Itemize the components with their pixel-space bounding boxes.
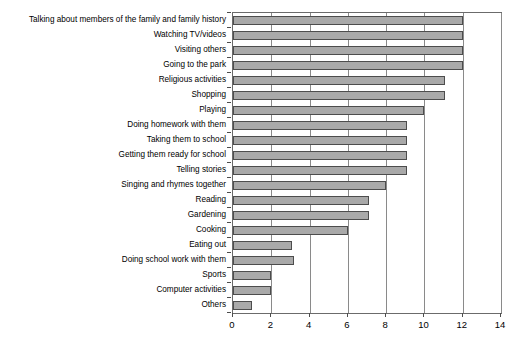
bar-row <box>233 58 501 73</box>
y-axis-tick <box>227 312 231 313</box>
x-axis-tick <box>270 313 271 317</box>
x-axis-tick <box>500 313 501 317</box>
category-label: Singing and rhymes together <box>0 177 226 192</box>
gridline <box>501 13 502 313</box>
category-axis-labels: Talking about members of the family and … <box>0 12 230 312</box>
x-axis-tick <box>423 313 424 317</box>
bar <box>233 226 348 235</box>
y-axis-tick <box>227 162 231 163</box>
bar-row <box>233 73 501 88</box>
category-label: Sports <box>0 267 226 282</box>
bar <box>233 46 463 55</box>
bar <box>233 76 445 85</box>
bar <box>233 196 369 205</box>
bar <box>233 211 369 220</box>
bar <box>233 151 407 160</box>
bar-row <box>233 43 501 58</box>
bar-row <box>233 13 501 28</box>
x-axis-tick <box>309 313 310 317</box>
bar-row <box>233 283 501 298</box>
category-label: Doing homework with them <box>0 117 226 132</box>
bar <box>233 241 292 250</box>
bar <box>233 181 386 190</box>
bar <box>233 301 252 310</box>
y-axis-tick <box>227 177 231 178</box>
y-axis-tick <box>227 117 231 118</box>
bar-row <box>233 253 501 268</box>
x-axis-tick-label: 0 <box>217 319 247 330</box>
y-axis-tick <box>227 72 231 73</box>
x-axis-tick <box>347 313 348 317</box>
bar <box>233 91 445 100</box>
y-axis-tick <box>227 237 231 238</box>
x-axis: 02468101214 <box>232 313 500 343</box>
bar-row <box>233 28 501 43</box>
bar-row <box>233 148 501 163</box>
category-label: Playing <box>0 102 226 117</box>
x-axis-tick-label: 12 <box>447 319 477 330</box>
y-axis-tick <box>227 222 231 223</box>
x-axis-tick-label: 8 <box>370 319 400 330</box>
bar-row <box>233 178 501 193</box>
category-label: Religious activities <box>0 72 226 87</box>
bar-row <box>233 118 501 133</box>
bar <box>233 286 271 295</box>
category-label: Others <box>0 297 226 312</box>
bar-row <box>233 103 501 118</box>
bar-row <box>233 193 501 208</box>
category-label: Reading <box>0 192 226 207</box>
y-axis-tick <box>227 252 231 253</box>
category-label: Shopping <box>0 87 226 102</box>
category-label: Eating out <box>0 237 226 252</box>
category-label: Computer activities <box>0 282 226 297</box>
x-axis-tick-label: 14 <box>485 319 515 330</box>
x-axis-tick <box>232 313 233 317</box>
bar-row <box>233 268 501 283</box>
category-label: Getting them ready for school <box>0 147 226 162</box>
y-axis-tick <box>227 147 231 148</box>
bar <box>233 106 424 115</box>
x-axis-tick <box>385 313 386 317</box>
category-label: Visiting others <box>0 42 226 57</box>
bar <box>233 61 463 70</box>
y-axis-tick <box>227 132 231 133</box>
bar <box>233 166 407 175</box>
bar <box>233 271 271 280</box>
x-axis-tick-label: 10 <box>408 319 438 330</box>
bar-chart: Talking about members of the family and … <box>0 0 516 349</box>
category-label: Watching TV/videos <box>0 27 226 42</box>
y-axis-tick <box>227 207 231 208</box>
bar <box>233 256 294 265</box>
x-axis-tick <box>462 313 463 317</box>
y-axis-tick <box>227 297 231 298</box>
bar-row <box>233 88 501 103</box>
bar-row <box>233 298 501 313</box>
category-label: Cooking <box>0 222 226 237</box>
category-label: Doing school work with them <box>0 252 226 267</box>
x-axis-tick-label: 2 <box>255 319 285 330</box>
category-label: Gardening <box>0 207 226 222</box>
bar-row <box>233 163 501 178</box>
x-axis-tick-label: 6 <box>332 319 362 330</box>
x-axis-tick-label: 4 <box>294 319 324 330</box>
y-axis-tick <box>227 12 231 13</box>
category-label: Going to the park <box>0 57 226 72</box>
bar-row <box>233 133 501 148</box>
bar <box>233 136 407 145</box>
category-label: Taking them to school <box>0 132 226 147</box>
y-axis-tick <box>227 267 231 268</box>
y-axis-tick <box>227 192 231 193</box>
bar <box>233 16 463 25</box>
y-axis-tick <box>227 102 231 103</box>
y-axis-tick <box>227 282 231 283</box>
bar <box>233 121 407 130</box>
category-label: Talking about members of the family and … <box>0 12 226 27</box>
bar-row <box>233 208 501 223</box>
y-axis-tick <box>227 57 231 58</box>
plot-area <box>232 12 502 314</box>
y-axis-tick <box>227 27 231 28</box>
y-axis-tick <box>227 87 231 88</box>
bar <box>233 31 463 40</box>
bar-series <box>233 13 501 313</box>
y-axis-tick <box>227 42 231 43</box>
